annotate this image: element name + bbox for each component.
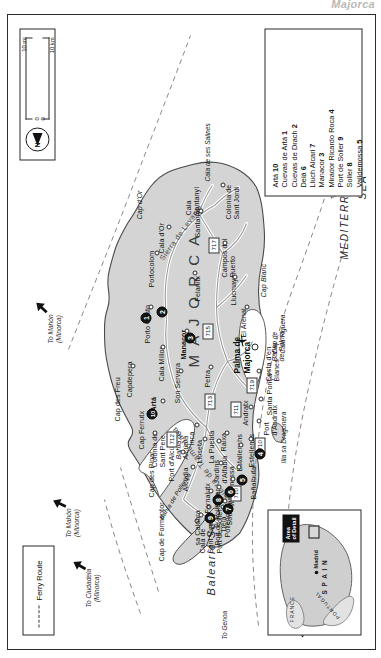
dot-fornalutx <box>208 488 213 493</box>
marker-3[interactable]: 3 <box>184 332 195 343</box>
dot-arta <box>160 398 165 403</box>
place-banalbufar: Bañalbufar <box>250 464 257 499</box>
marker-6[interactable]: 6 <box>224 486 235 497</box>
ferry-label-mahon-north: To Mahón(Minorca) <box>64 508 79 537</box>
scale-label-km: 10 km <box>48 37 54 53</box>
key-name-3: Deià <box>298 172 307 187</box>
dot-costa-den-blanes <box>256 368 261 373</box>
key-name-7: Port de Soller <box>335 142 344 187</box>
ferry-label-mahon-east: To Mahón(Minorca) <box>46 314 61 343</box>
city-dot-palma <box>251 343 258 350</box>
dot-jardins-alfabia <box>218 460 223 465</box>
dot-felanitx <box>192 270 197 275</box>
key-num-5: 3 <box>316 152 325 156</box>
dot-llucmayor <box>232 274 237 279</box>
place-cap-ferrutx: Cap Ferrutx <box>138 410 145 449</box>
place-portocolom: Portocolom <box>148 250 155 287</box>
key-num-0: 10 <box>270 163 279 171</box>
compass-north-label: N <box>34 142 41 147</box>
ferry-dash-sample <box>38 605 39 627</box>
place-lloseta: Lloseta <box>196 439 203 463</box>
page-title: Majorca <box>331 0 375 10</box>
road-shield-712: 712 <box>166 431 177 447</box>
road-shield-717: 717 <box>208 237 219 253</box>
place-colonia-de-sant-jordi: Colonia deSant Jordi <box>224 184 240 219</box>
north-and-scale-box: N 0 10 mi 0 10 km <box>19 28 55 160</box>
dot-colonia-sant-pere <box>152 430 157 435</box>
place-jardins-dalfabia: Jardinsd'Alfabia <box>212 455 228 483</box>
key-name-0: Artá <box>270 173 279 187</box>
place-alcudia: Alcúdia <box>182 467 189 491</box>
marker-9[interactable]: 9 <box>204 512 215 523</box>
ferry-arrow-mahon-east <box>34 301 48 313</box>
scale-zero-km: 0 <box>39 117 45 120</box>
place-felanitx: Felanitx <box>194 275 201 301</box>
key-item-2: Cuevas de Drach 2 <box>289 37 298 187</box>
place-cala-millor: Cala Millor <box>158 346 165 381</box>
place-inca: Inca <box>188 431 195 445</box>
dot-lloseta <box>202 436 207 441</box>
inset-area-of-detail-label: Areaof Detail <box>282 514 299 542</box>
ferry-label-ciudadela: To Ciudadela(Minorca) <box>84 568 99 607</box>
ferry-label-genoa: To Genoa <box>220 610 228 639</box>
place-andratx: Andratx <box>242 400 249 425</box>
marker-2[interactable]: 2 <box>156 306 167 317</box>
place-petra: Petra <box>204 370 211 387</box>
place-cala-dor: Cala d'Or <box>158 222 165 253</box>
place-illa-sa-dragonera: Illa sa Dragonera <box>280 411 287 463</box>
marker-1[interactable]: 1 <box>140 312 151 323</box>
key-item-6: Mirador Ricardo Roca 4 <box>326 37 335 187</box>
key-num-4: 7 <box>307 143 316 147</box>
ferry-route-legend: Ferry Route <box>22 545 54 635</box>
place-fornalutx: Fornalutx <box>204 483 211 513</box>
dot-capdepera <box>130 363 135 368</box>
key-name-2: Cuevas de Drach <box>289 130 298 187</box>
ferry-arrow-ciudadela <box>72 559 86 571</box>
marker-8[interactable]: 8 <box>212 494 223 505</box>
dot-valldemossa <box>230 476 235 481</box>
key-item-8: Soller 8 <box>344 37 353 187</box>
place-el-arenal: El Arenal <box>240 308 247 337</box>
key-name-9: Valldemossa <box>354 145 363 187</box>
key-name-6: Mirador Ricardo Roca <box>326 115 335 187</box>
ferry-legend-label: Ferry Route <box>34 560 43 600</box>
inset-label-france: FRANCE <box>288 595 294 622</box>
inset-label-madrid: Madrid <box>312 550 318 568</box>
ferry-arrow-mahon-north <box>52 497 66 509</box>
place-cala-de-ses-salines: Cala de ses Salines <box>204 123 211 181</box>
dot-el-arenal <box>244 304 249 309</box>
dot-estallenchs <box>238 442 243 447</box>
key-name-1: Cuevas de Artá <box>279 136 288 187</box>
dot-inca <box>194 422 199 427</box>
key-num-6: 4 <box>326 109 335 113</box>
inset-map-spain[interactable]: FRANCE S P A I N PORTUGAL Madrid Areaof … <box>267 509 361 635</box>
marker-4[interactable]: 4 <box>254 448 265 459</box>
compass-north-icon: N <box>25 127 49 151</box>
key-item-5: Manacor 3 <box>316 37 325 187</box>
dot-sa-calobra <box>198 512 203 517</box>
dot-estellenes <box>248 436 253 441</box>
scale-zero-mi: 0 <box>33 117 39 120</box>
key-name-5: Manacor <box>316 158 325 187</box>
place-cap-dor: Cap d'Or <box>136 190 143 219</box>
dot-port-dalcudia <box>180 449 185 454</box>
key-num-9: 5 <box>354 139 363 143</box>
road-shield-719: 719 <box>246 377 257 393</box>
key-num-2: 2 <box>289 124 298 128</box>
marker-7[interactable]: 7 <box>222 503 233 514</box>
map-frame[interactable]: M A J O R C A Balearic Sea MEDITERRANEAN… <box>7 14 376 650</box>
marker-10[interactable]: 10 <box>146 408 157 419</box>
key-name-8: Soller <box>344 168 353 187</box>
key-num-8: 8 <box>344 162 353 166</box>
dot-porto-cristo <box>148 304 153 309</box>
marker-5[interactable]: 5 <box>236 474 247 485</box>
key-item-4: Lluch Alcari 7 <box>307 37 316 187</box>
map-canvas[interactable]: M A J O R C A Balearic Sea MEDITERRANEAN… <box>8 15 375 649</box>
place-colonia-de-sant-pere: Colonia deSant Pere <box>150 432 166 467</box>
key-num-3: 6 <box>298 166 307 170</box>
key-num-7: 9 <box>335 136 344 140</box>
key-item-7: Port de Soller 9 <box>335 37 344 187</box>
dot-soller <box>216 484 221 489</box>
scale-label-mi: 10 mi <box>20 37 26 51</box>
dot-campos <box>222 240 227 245</box>
